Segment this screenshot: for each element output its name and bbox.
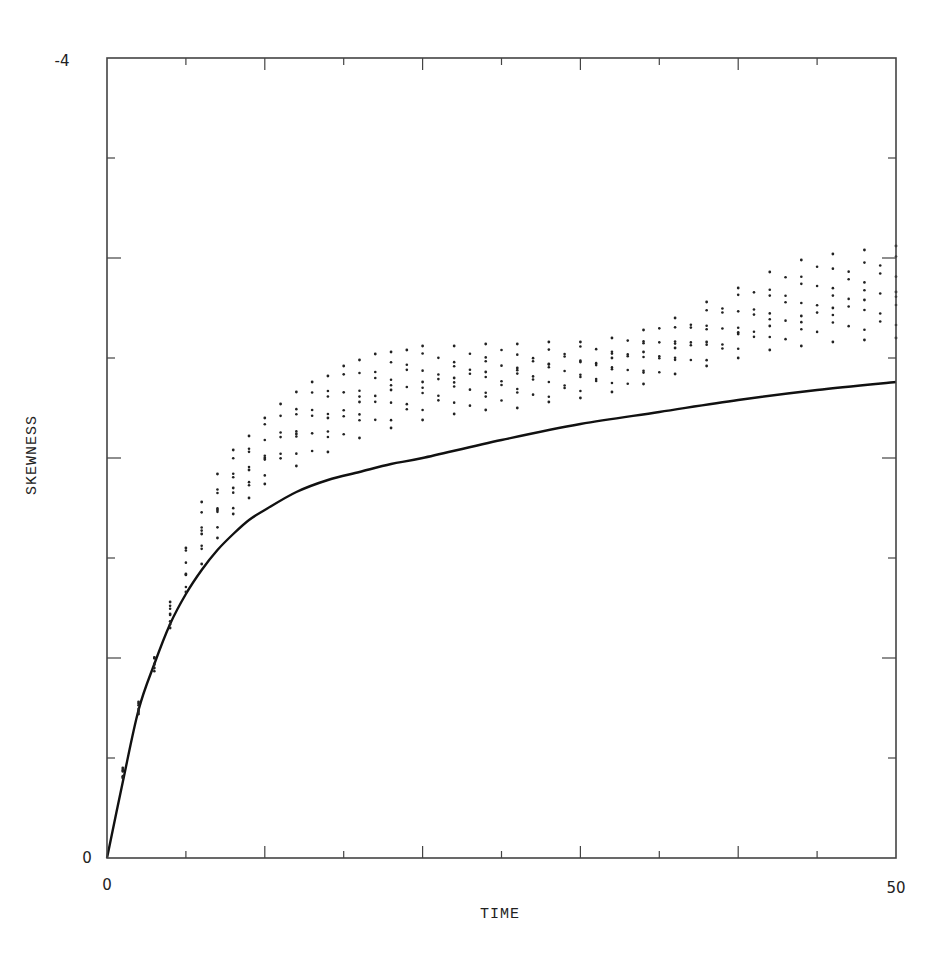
data-point	[674, 347, 677, 350]
data-point	[879, 272, 882, 275]
data-point	[327, 395, 330, 398]
data-point	[390, 427, 393, 430]
data-point	[831, 307, 834, 310]
data-point	[847, 325, 850, 328]
data-point	[642, 340, 645, 343]
data-point	[295, 433, 298, 436]
data-point	[327, 451, 330, 454]
data-point	[200, 526, 203, 529]
data-point	[816, 331, 819, 334]
data-point	[311, 381, 314, 384]
data-point	[232, 449, 235, 452]
data-point	[185, 574, 188, 577]
data-point	[547, 341, 550, 344]
data-point	[263, 417, 266, 420]
data-point	[232, 476, 235, 479]
data-point	[421, 387, 424, 390]
data-point	[674, 340, 677, 343]
data-point	[169, 605, 172, 608]
data-point	[137, 702, 140, 705]
data-point	[390, 384, 393, 387]
data-point	[658, 371, 661, 374]
data-point	[264, 458, 267, 461]
data-point	[784, 301, 787, 304]
data-point	[847, 305, 850, 308]
data-point	[611, 391, 614, 394]
data-point	[800, 345, 803, 348]
data-point	[169, 601, 172, 604]
data-point	[579, 345, 582, 348]
data-point	[690, 344, 693, 347]
data-point	[863, 309, 866, 312]
data-point	[469, 368, 472, 371]
data-point	[358, 413, 361, 416]
data-point	[200, 511, 203, 514]
data-point	[705, 309, 708, 312]
data-point	[484, 395, 487, 398]
data-point	[169, 627, 172, 630]
data-point	[437, 357, 440, 360]
data-point	[847, 278, 850, 281]
data-point	[595, 378, 598, 381]
data-point	[169, 614, 172, 617]
data-point	[121, 768, 124, 771]
data-point	[358, 359, 361, 362]
data-point	[453, 413, 456, 416]
data-point	[690, 359, 693, 362]
data-point	[705, 324, 708, 327]
data-point	[374, 401, 377, 404]
data-point	[800, 315, 803, 318]
data-point	[547, 401, 550, 404]
data-point	[563, 384, 566, 387]
data-point	[737, 310, 740, 313]
data-point	[532, 360, 535, 363]
data-point	[406, 386, 409, 389]
data-point	[264, 455, 267, 458]
data-point	[185, 591, 188, 594]
data-point	[832, 267, 835, 270]
data-point	[579, 390, 582, 393]
data-point	[216, 488, 219, 491]
data-point	[216, 473, 219, 476]
data-point	[216, 492, 219, 495]
data-point	[548, 348, 551, 351]
data-point	[248, 497, 251, 500]
data-point	[626, 369, 629, 372]
data-point	[642, 356, 645, 359]
data-point	[216, 537, 219, 540]
data-point	[453, 401, 456, 404]
data-point	[279, 457, 282, 460]
axis-ticks	[107, 58, 896, 858]
data-point	[185, 549, 188, 552]
data-point	[390, 419, 393, 422]
data-point	[121, 775, 124, 778]
data-point	[484, 356, 487, 359]
data-point	[358, 437, 361, 440]
data-point	[548, 381, 551, 384]
data-point	[784, 338, 787, 341]
data-point	[405, 349, 408, 352]
data-point	[406, 369, 409, 372]
data-point	[674, 373, 677, 376]
data-point	[248, 481, 251, 484]
data-point	[800, 259, 803, 262]
data-point	[611, 382, 614, 385]
data-point	[421, 369, 424, 372]
data-point	[453, 385, 456, 388]
data-point	[453, 361, 456, 364]
data-point	[705, 328, 708, 331]
data-point	[358, 395, 361, 398]
data-point	[153, 662, 156, 665]
data-point	[185, 561, 188, 564]
data-point	[311, 391, 314, 394]
data-point	[421, 409, 424, 412]
data-point	[816, 304, 819, 307]
data-point	[295, 413, 298, 416]
data-point	[516, 407, 519, 410]
data-point	[516, 391, 519, 394]
data-point	[200, 563, 203, 566]
data-point	[374, 395, 377, 398]
data-point	[248, 484, 251, 487]
data-point	[563, 387, 566, 390]
data-point	[327, 375, 330, 378]
